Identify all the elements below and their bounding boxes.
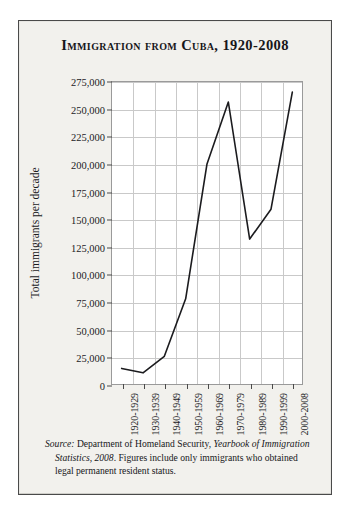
- y-tick-label: 25,000: [76, 353, 105, 364]
- y-tick-label: 250,000: [71, 104, 105, 115]
- source-note: Source: Department of Homeland Security,…: [45, 437, 311, 478]
- y-tick-label: 225,000: [71, 132, 105, 143]
- footer-rule: [19, 493, 331, 494]
- y-tick-label: 275,000: [71, 77, 105, 88]
- chart-area: Total immigrants per decade 025,00050,00…: [19, 65, 333, 410]
- source-agency: Department of Homeland Security,: [74, 438, 213, 449]
- y-tick-mark: [107, 386, 112, 387]
- data-line: [111, 81, 303, 385]
- y-tick-label: 100,000: [71, 270, 105, 281]
- y-axis-label: Total immigrants per decade: [29, 167, 41, 298]
- y-tick-label: 50,000: [76, 325, 105, 336]
- y-tick-label: 75,000: [76, 298, 105, 309]
- page-title: Immigration from Cuba, 1920-2008: [19, 37, 331, 54]
- source-label: Source:: [45, 438, 74, 449]
- y-tick-label: 200,000: [71, 159, 105, 170]
- y-tick-label: 175,000: [71, 187, 105, 198]
- y-tick-label: 125,000: [71, 242, 105, 253]
- figure-page: Immigration from Cuba, 1920-2008 Total i…: [0, 0, 352, 515]
- figure-panel: Immigration from Cuba, 1920-2008 Total i…: [18, 20, 332, 495]
- y-tick-label: 0: [100, 381, 105, 392]
- y-tick-label: 150,000: [71, 215, 105, 226]
